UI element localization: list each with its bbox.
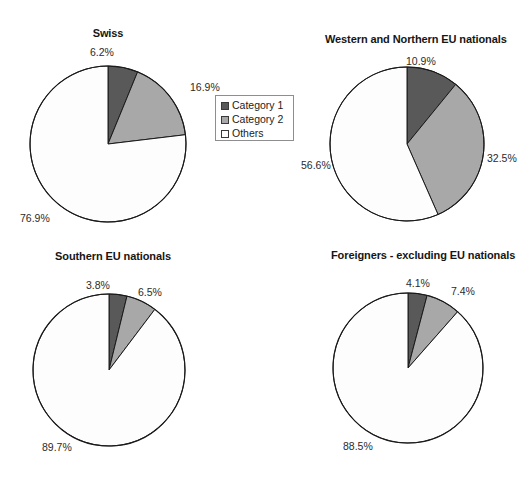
- legend-label-others: Others: [232, 128, 264, 139]
- pie-label-southern-category-2: 6.5%: [138, 286, 162, 298]
- chart-legend: Category 1 Category 2 Others: [215, 95, 294, 141]
- legend-label-category-1: Category 1: [232, 100, 283, 111]
- pie-slice-others: [33, 294, 185, 446]
- chart-title-swiss: Swiss: [58, 27, 158, 39]
- pie-label-swiss-others: 76.9%: [20, 212, 50, 224]
- pie-label-western-category-1: 10.9%: [406, 55, 436, 67]
- pie-label-western-category-2: 32.5%: [487, 152, 517, 164]
- legend-item-category-1: Category 1: [221, 99, 293, 112]
- pie-label-western-others: 56.6%: [301, 159, 331, 171]
- pie-label-foreigners-others: 88.5%: [343, 440, 373, 452]
- pie-southern-eu: [32, 293, 186, 447]
- chart-title-foreigners-excluding-eu: Foreigners - excluding EU nationals: [331, 249, 511, 261]
- legend-swatch-others-icon: [221, 130, 229, 138]
- legend-swatch-category-2-icon: [221, 116, 229, 124]
- chart-title-western-northern-eu: Western and Northern EU nationals: [325, 33, 501, 45]
- legend-item-category-2: Category 2: [221, 113, 293, 126]
- pie-western-northern-eu: [329, 66, 485, 222]
- legend-item-others: Others: [221, 127, 293, 140]
- pie-slice-others: [333, 293, 483, 443]
- pie-label-southern-category-1: 3.8%: [86, 279, 110, 291]
- pie-swiss: [29, 65, 187, 223]
- legend-label-category-2: Category 2: [232, 114, 283, 125]
- pie-label-swiss-category-1: 6.2%: [90, 46, 114, 58]
- legend-swatch-category-1-icon: [221, 102, 229, 110]
- chart-title-southern-eu: Southern EU nationals: [52, 250, 174, 262]
- pie-label-foreigners-category-2: 7.4%: [451, 285, 475, 297]
- pie-label-southern-others: 89.7%: [42, 441, 72, 453]
- pie-foreigners-excluding-eu: [332, 292, 484, 444]
- pie-chart-figure: Swiss 6.2% 16.9% 76.9% Western and North…: [0, 0, 532, 480]
- pie-label-foreigners-category-1: 4.1%: [406, 277, 430, 289]
- pie-label-swiss-category-2: 16.9%: [190, 81, 220, 93]
